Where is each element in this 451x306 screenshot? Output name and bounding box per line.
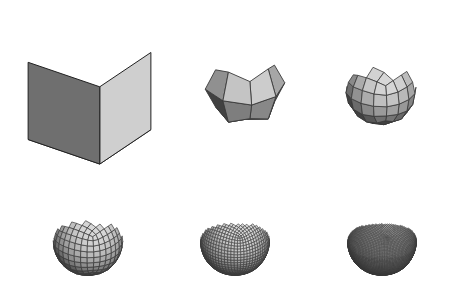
panel-cube-level-1	[196, 30, 294, 142]
mesh-face	[81, 267, 88, 271]
panel-cube-level-4	[183, 186, 287, 296]
mesh-face	[374, 94, 387, 107]
mesh-face	[87, 252, 94, 258]
mesh-face	[87, 240, 93, 246]
mesh-face	[234, 255, 237, 258]
subdivision-mesh-svg	[36, 186, 140, 296]
mesh-face	[382, 240, 383, 242]
mesh-faces	[348, 223, 417, 275]
mesh-face	[237, 243, 240, 246]
mesh-face	[234, 249, 237, 252]
panel-cube-level-3	[36, 186, 140, 296]
mesh-face	[87, 246, 93, 252]
subdivision-mesh-svg	[331, 34, 431, 146]
mesh-face	[234, 246, 237, 249]
panel-cube-level-0	[27, 12, 152, 172]
cube-svg	[27, 12, 152, 172]
mesh-face	[234, 263, 237, 265]
panel-cube-level-5	[330, 186, 434, 296]
mesh-face	[234, 258, 237, 261]
mesh-face	[374, 106, 387, 116]
mesh-face	[81, 263, 88, 268]
cube-face	[28, 62, 100, 164]
mesh-face	[81, 257, 88, 263]
mesh-face	[87, 263, 93, 268]
subdivision-figure	[0, 0, 451, 306]
mesh-face	[237, 255, 240, 258]
mesh-face	[237, 246, 240, 249]
subdivision-mesh-svg	[330, 186, 434, 296]
mesh-faces	[201, 223, 270, 275]
mesh-face	[81, 239, 88, 246]
mesh-face	[234, 260, 237, 263]
mesh-faces	[53, 221, 123, 276]
mesh-face	[237, 252, 240, 255]
mesh-face	[234, 252, 237, 255]
panel-cube-level-2	[331, 34, 431, 146]
subdivision-mesh-svg	[183, 186, 287, 296]
mesh-faces	[346, 67, 416, 124]
cube-face	[100, 52, 151, 164]
subdivision-mesh-svg	[196, 30, 294, 142]
mesh-faces	[205, 65, 285, 122]
mesh-face	[235, 240, 238, 243]
mesh-face	[237, 249, 240, 252]
mesh-face	[223, 72, 252, 105]
mesh-face	[87, 258, 94, 263]
mesh-face	[237, 241, 240, 244]
